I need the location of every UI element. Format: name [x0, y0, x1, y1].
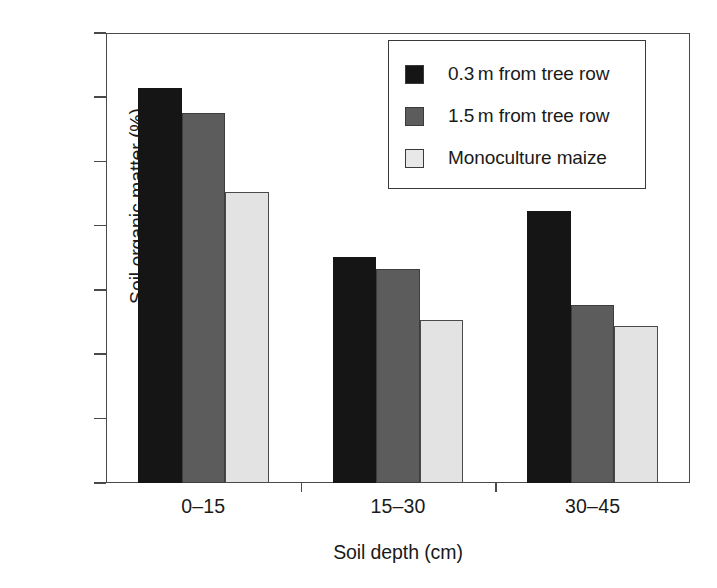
- bar: [138, 88, 182, 483]
- bar: [420, 320, 464, 483]
- legend-item: 1.5 m from tree row: [405, 103, 609, 129]
- legend-item: Monoculture maize: [405, 145, 607, 171]
- y-tick-mark: [94, 225, 106, 227]
- x-tick-mark: [495, 482, 497, 492]
- bar: [527, 211, 571, 483]
- legend-label: Monoculture maize: [448, 147, 607, 169]
- y-tick-mark: [94, 161, 106, 163]
- x-tick-label: 0–15: [133, 495, 273, 518]
- y-tick-mark: [94, 482, 106, 484]
- bar: [333, 257, 377, 483]
- legend-swatch: [405, 65, 424, 84]
- legend-swatch: [405, 107, 424, 126]
- y-tick-mark: [94, 96, 106, 98]
- legend-label: 0.3 m from tree row: [448, 63, 609, 85]
- x-tick-mark: [301, 482, 303, 492]
- bar: [182, 113, 226, 483]
- x-tick-label: 30–45: [523, 495, 663, 518]
- legend-label: 1.5 m from tree row: [448, 105, 609, 127]
- y-tick-mark: [94, 353, 106, 355]
- bar: [614, 326, 658, 483]
- y-tick-mark: [94, 32, 106, 34]
- y-tick-mark: [94, 289, 106, 291]
- bar-chart-figure: Soil organic matter (%) 1.81.92.02.12.22…: [0, 0, 717, 588]
- legend: 0.3 m from tree row1.5 m from tree rowMo…: [388, 40, 646, 189]
- legend-item: 0.3 m from tree row: [405, 61, 609, 87]
- bar: [225, 192, 269, 483]
- legend-swatch: [405, 149, 424, 168]
- y-tick-mark: [94, 418, 106, 420]
- bar: [376, 269, 420, 483]
- x-tick-label: 15–30: [328, 495, 468, 518]
- x-axis-title: Soil depth (cm): [106, 541, 690, 564]
- bar: [571, 305, 615, 483]
